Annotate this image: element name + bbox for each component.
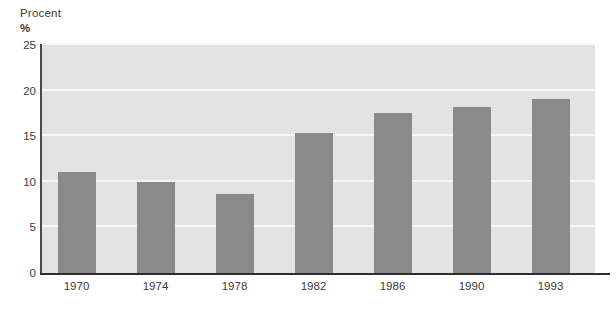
x-axis-tick-label: 1990 xyxy=(442,280,502,292)
x-axis-tick-label: 1974 xyxy=(126,280,186,292)
y-axis-tick-label: 25 xyxy=(2,39,36,51)
x-axis-tick-label: 1993 xyxy=(521,280,581,292)
bar xyxy=(453,107,491,273)
x-axis-tick-label: 1978 xyxy=(205,280,265,292)
x-axis-tick-label: 1982 xyxy=(284,280,344,292)
bar xyxy=(374,113,412,273)
x-axis-tick-label: 1986 xyxy=(363,280,423,292)
y-axis-tick-labels: 0510152025 xyxy=(0,0,36,310)
plot-area xyxy=(42,45,595,273)
gridline xyxy=(42,43,595,45)
bar xyxy=(137,182,175,273)
bar xyxy=(532,99,570,273)
y-axis-tick-label: 20 xyxy=(2,85,36,97)
y-axis-tick-label: 10 xyxy=(2,176,36,188)
x-axis-line xyxy=(40,273,610,275)
bar xyxy=(216,194,254,273)
bar xyxy=(58,172,96,273)
y-axis-tick-label: 0 xyxy=(2,267,36,279)
x-axis-tick-label: 1970 xyxy=(47,280,107,292)
bar xyxy=(295,133,333,273)
y-axis-line xyxy=(40,44,42,275)
y-axis-tick-label: 5 xyxy=(2,221,36,233)
y-axis-tick-label: 15 xyxy=(2,130,36,142)
bar-chart-figure: Procent % 0510152025 1970197419781982198… xyxy=(0,0,616,310)
gridline xyxy=(42,89,595,91)
